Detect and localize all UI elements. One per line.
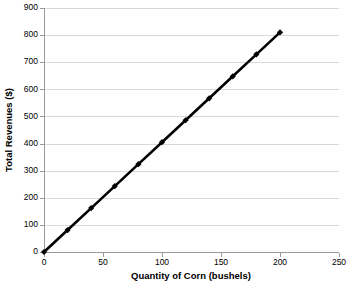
x-tick-label: 100 — [155, 257, 169, 267]
y-tick-label: 0 — [33, 246, 38, 256]
x-tick-label: 250 — [332, 257, 346, 267]
y-tick-label: 900 — [24, 2, 38, 12]
line-chart: 0100200300400500600700800900 05010015020… — [0, 0, 363, 286]
x-axis-title: Quantity of Corn (bushels) — [131, 270, 251, 281]
y-tick-label: 100 — [24, 219, 38, 229]
chart-canvas: 0100200300400500600700800900 05010015020… — [0, 0, 363, 286]
y-tick-label: 400 — [24, 138, 38, 148]
y-tick-label: 300 — [24, 165, 38, 175]
y-tick-label: 700 — [24, 56, 38, 66]
x-tick-label: 200 — [273, 257, 287, 267]
x-tick-label: 150 — [214, 257, 228, 267]
x-tick-label: 50 — [98, 257, 108, 267]
y-axis-title: Total Revenues ($) — [3, 88, 14, 172]
y-tick-label: 200 — [24, 192, 38, 202]
x-tick-label: 0 — [42, 257, 47, 267]
y-tick-label: 800 — [24, 29, 38, 39]
y-tick-label: 500 — [24, 111, 38, 121]
y-tick-label: 600 — [24, 84, 38, 94]
